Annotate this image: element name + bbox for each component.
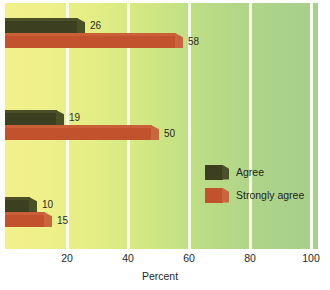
bar-highlight xyxy=(5,125,152,128)
bar-agree-group2[interactable] xyxy=(5,110,64,125)
bar-chart: 26 58 19 50 10 15 Agree Strongly agree xyxy=(0,0,330,290)
bar-end-cap xyxy=(77,18,85,33)
bar-highlight xyxy=(5,18,78,21)
x-axis-title-text: Percent xyxy=(142,270,178,282)
x-tick-20: 20 xyxy=(61,252,73,264)
swatch-end-cap xyxy=(222,188,229,203)
bar-end-cap xyxy=(29,197,37,212)
value-label-58: 58 xyxy=(188,36,199,48)
x-tick-60: 60 xyxy=(183,252,195,264)
value-label-50: 50 xyxy=(164,128,175,140)
x-tick-40: 40 xyxy=(122,252,134,264)
bar-strongly-agree-group2[interactable] xyxy=(5,125,159,140)
bar-end-cap xyxy=(56,110,64,125)
value-label-19: 19 xyxy=(69,112,80,124)
bar-end-cap xyxy=(175,33,183,48)
bar-agree-group1[interactable] xyxy=(5,18,85,33)
bar-highlight xyxy=(5,110,57,113)
legend-label-agree: Agree xyxy=(236,166,264,178)
x-tick-100: 100 xyxy=(302,252,320,264)
legend-item-agree[interactable]: Agree xyxy=(205,163,304,181)
value-label-26: 26 xyxy=(90,20,101,32)
legend-label-strongly-agree: Strongly agree xyxy=(236,189,304,201)
swatch-body xyxy=(205,188,223,203)
strongly-agree-swatch xyxy=(205,188,229,203)
bar-highlight xyxy=(5,212,45,215)
bar-highlight xyxy=(5,197,30,200)
gridline-80 xyxy=(249,3,252,249)
value-label-10: 10 xyxy=(42,199,53,211)
swatch-end-cap xyxy=(222,165,229,180)
plot-area: 26 58 19 50 10 15 Agree Strongly agree xyxy=(5,3,318,249)
x-tick-80: 80 xyxy=(244,252,256,264)
bar-end-cap xyxy=(151,125,159,140)
legend: Agree Strongly agree xyxy=(205,163,304,209)
agree-swatch xyxy=(205,165,229,180)
x-axis-title: Percent xyxy=(0,270,330,282)
bar-agree-group3[interactable] xyxy=(5,197,37,212)
bar-strongly-agree-group3[interactable] xyxy=(5,212,52,227)
bar-highlight xyxy=(5,33,176,36)
value-label-15: 15 xyxy=(57,215,68,227)
bar-strongly-agree-group1[interactable] xyxy=(5,33,183,48)
legend-item-strongly-agree[interactable]: Strongly agree xyxy=(205,186,304,204)
bar-end-cap xyxy=(44,212,52,227)
swatch-body xyxy=(205,165,223,180)
gridline-100 xyxy=(310,3,313,249)
